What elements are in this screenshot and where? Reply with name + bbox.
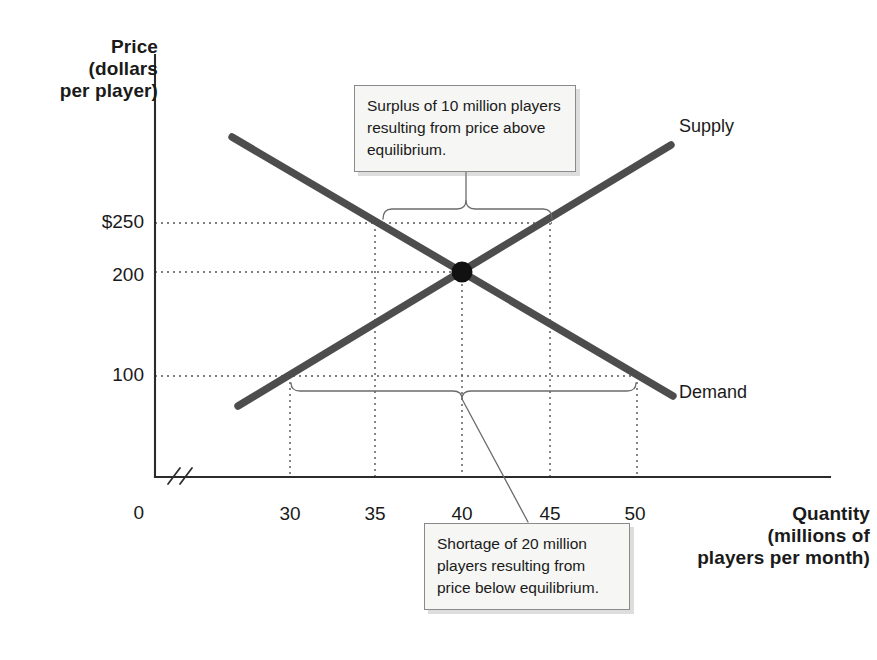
x-tick-label-50: 50 (610, 503, 660, 525)
demand-curve (232, 137, 673, 396)
shortage-brace (291, 383, 636, 522)
x-tick-label-45: 45 (525, 503, 575, 525)
x-tick-label-40: 40 (437, 503, 487, 525)
guide-lines (155, 223, 637, 477)
demand-curve-label: Demand (679, 382, 747, 403)
y-tick-label-250: $250 (76, 211, 144, 233)
origin-label: 0 (76, 502, 144, 524)
supply-demand-figure: Price (dollars per player) Quantity (mil… (0, 0, 877, 660)
x-tick-label-30: 30 (265, 503, 315, 525)
x-tick-label-35: 35 (350, 503, 400, 525)
surplus-callout: Surplus of 10 million players resulting … (354, 85, 576, 172)
equilibrium-point (452, 262, 473, 283)
y-tick-label-200: 200 (76, 264, 144, 286)
shortage-callout: Shortage of 20 million players resulting… (424, 523, 630, 610)
supply-curve-label: Supply (679, 116, 734, 137)
x-axis-title: Quantity (millions of players per month) (692, 503, 870, 569)
y-tick-label-100: 100 (76, 364, 144, 386)
y-axis-title: Price (dollars per player) (10, 36, 158, 102)
